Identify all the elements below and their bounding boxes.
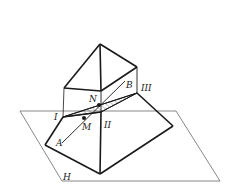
label-h: H <box>62 172 71 182</box>
label-a: A <box>55 138 63 148</box>
label-ii: II <box>103 120 112 130</box>
label-m: M <box>81 122 92 132</box>
label-iii: III <box>140 83 152 93</box>
point-m <box>82 116 86 120</box>
point-n <box>97 103 101 107</box>
label-b: B <box>125 80 133 90</box>
geometry-diagram: I II III N M A B H <box>0 0 238 196</box>
label-i: I <box>53 112 58 122</box>
label-n: N <box>88 94 98 104</box>
plane-h <box>20 111 220 181</box>
